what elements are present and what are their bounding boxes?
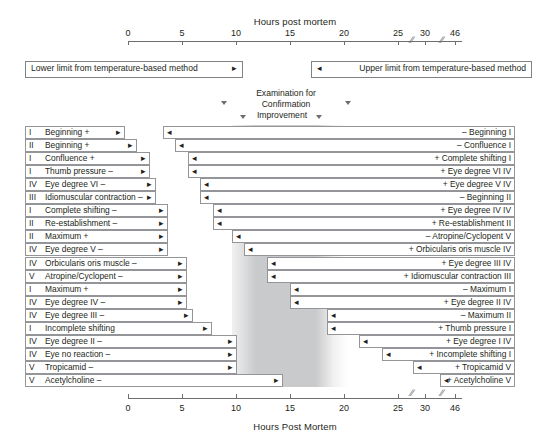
left-stage-roman: V bbox=[29, 375, 44, 387]
left-bar: IVEye degree VI –▸ bbox=[25, 178, 156, 191]
chart-row: VAcetylcholine –▸◂+ Acetylcholine V bbox=[0, 374, 540, 387]
axis-break-icon-1: // bbox=[408, 389, 415, 398]
left-bar: IThumb pressure –▸ bbox=[25, 165, 150, 178]
right-arrow-icon: ▸ bbox=[141, 153, 146, 165]
left-stage-roman: III bbox=[29, 192, 44, 204]
chart-row: VAtropine/Cyclopent –▸◂+ Idiomuscular co… bbox=[0, 270, 540, 283]
chart-row: IVOrbicularis oris muscle –▸◂+ Eye degre… bbox=[0, 257, 540, 270]
axis-tick-label-46: 46 bbox=[450, 28, 460, 38]
left-stage-roman: IV bbox=[29, 258, 44, 270]
right-sign-label: + Tropicamid V bbox=[455, 362, 511, 374]
axis-tick-25 bbox=[398, 394, 399, 398]
chart-row: IIMaximum +▸◂– Atropine/Cyclopent V bbox=[0, 230, 540, 243]
right-sign-label: – Confluence I bbox=[457, 140, 511, 152]
right-bar: ◂+ Acetylcholine V bbox=[440, 374, 515, 387]
left-arrow-icon: ◂ bbox=[217, 205, 222, 217]
right-sign-label: + Thumb pressure I bbox=[438, 323, 511, 335]
axis-tick-46 bbox=[455, 394, 456, 398]
axis-tick-20 bbox=[344, 41, 345, 45]
left-arrow-icon: ◂ bbox=[204, 192, 209, 204]
right-arrow-icon: ▸ bbox=[159, 218, 164, 230]
lower-limit-label: Lower limit from temperature-based metho… bbox=[31, 62, 198, 75]
axis-tick-label-46: 46 bbox=[450, 403, 460, 413]
left-arrow-icon: ◂ bbox=[204, 179, 209, 191]
right-arrow-icon: ▸ bbox=[116, 127, 121, 139]
left-stage-roman: IV bbox=[29, 310, 44, 322]
axis-tick-0 bbox=[128, 394, 129, 398]
right-bar: ◂+ Eye degree I IV bbox=[359, 335, 515, 348]
left-bar: IIncomplete shifting▸ bbox=[25, 322, 212, 335]
left-sign-label: Eye degree II – bbox=[45, 336, 102, 348]
axis-line bbox=[128, 398, 462, 399]
right-arrow-icon: ▸ bbox=[203, 323, 208, 335]
left-arrow-icon: ◂ bbox=[167, 127, 172, 139]
right-bar: ◂– Atropine/Cyclopent V bbox=[232, 230, 515, 243]
left-arrow-icon: ◂ bbox=[294, 284, 299, 296]
chart-row: IVEye no reaction –▸◂+ Incomplete shifti… bbox=[0, 348, 540, 361]
axis-break-icon-2: // bbox=[438, 389, 445, 398]
marker-outer-left-triangle-icon bbox=[221, 101, 227, 105]
left-arrow-icon: ◂ bbox=[294, 297, 299, 309]
left-stage-roman: I bbox=[29, 127, 44, 139]
right-sign-label: + Eye degree V IV bbox=[443, 179, 511, 191]
right-arrow-icon: ▸ bbox=[232, 63, 237, 74]
left-arrow-icon: ◂ bbox=[217, 218, 222, 230]
axis-tick-label-0: 0 bbox=[125, 28, 130, 38]
left-stage-roman: II bbox=[29, 231, 44, 243]
left-sign-label: Incomplete shifting bbox=[45, 323, 115, 335]
chart-row: IVEye degree IV –▸◂+ Eye degree II IV bbox=[0, 296, 540, 309]
left-sign-label: Tropicamid – bbox=[45, 362, 93, 374]
right-bar: ◂– Beginning I bbox=[163, 126, 515, 139]
left-arrow-icon: ◂ bbox=[192, 166, 197, 178]
left-stage-roman: I bbox=[29, 166, 44, 178]
right-sign-label: + Re-establishment II bbox=[432, 218, 511, 230]
right-bar: ◂+ Thumb pressure I bbox=[327, 322, 515, 335]
left-bar: IIRe-establishment –▸ bbox=[25, 217, 168, 230]
left-bar: IVEye degree II –▸ bbox=[25, 335, 237, 348]
left-stage-roman: V bbox=[29, 362, 44, 374]
left-arrow-icon: ◂ bbox=[331, 310, 336, 322]
upper-limit-label: Upper limit from temperature-based metho… bbox=[359, 62, 526, 75]
left-arrow-icon: ◂ bbox=[317, 63, 322, 74]
right-bar: ◂+ Eye degree V IV bbox=[200, 178, 515, 191]
right-sign-label: + Eye degree III IV bbox=[441, 258, 511, 270]
axis-tick-label-30: 30 bbox=[420, 403, 430, 413]
left-bar: IVEye degree V –▸ bbox=[25, 243, 168, 256]
axis-tick-30 bbox=[425, 41, 426, 45]
right-sign-label: – Maximum II bbox=[461, 310, 511, 322]
left-arrow-icon: ◂ bbox=[271, 258, 276, 270]
bottom-axis: 05101520253046//// bbox=[0, 398, 540, 422]
right-arrow-icon: ▸ bbox=[178, 271, 183, 283]
left-arrow-icon: ◂ bbox=[363, 336, 368, 348]
right-arrow-icon: ▸ bbox=[159, 231, 164, 243]
left-bar: IVOrbicularis oris muscle –▸ bbox=[25, 257, 187, 270]
left-bar: IVEye degree IV –▸ bbox=[25, 296, 187, 309]
right-arrow-icon: ▸ bbox=[128, 140, 133, 152]
left-arrow-icon: ◂ bbox=[236, 231, 241, 243]
lower-limit-bar: Lower limit from temperature-based metho… bbox=[25, 61, 243, 78]
chart-row: IConfluence +▸◂+ Complete shifting I bbox=[0, 152, 540, 165]
left-sign-label: Atropine/Cyclopent – bbox=[45, 271, 123, 283]
left-bar: IMaximum +▸ bbox=[25, 283, 187, 296]
chart-row: IIIIdiomuscular contraction –▸◂– Beginni… bbox=[0, 191, 540, 204]
marker-outer-right-triangle-icon bbox=[345, 101, 351, 105]
right-sign-label: + Complete shifting I bbox=[434, 153, 511, 165]
axis-tick-5 bbox=[182, 41, 183, 45]
chart-row: IVEye degree V –▸◂+ Orbicularis oris mus… bbox=[0, 243, 540, 256]
right-arrow-icon: ▸ bbox=[178, 258, 183, 270]
right-arrow-icon: ▸ bbox=[274, 375, 279, 387]
left-stage-roman: V bbox=[29, 271, 44, 283]
right-sign-label: + Eye degree VI IV bbox=[440, 166, 511, 178]
axis-tick-10 bbox=[236, 394, 237, 398]
left-arrow-icon: ◂ bbox=[179, 140, 184, 152]
axis-tick-label-0: 0 bbox=[125, 403, 130, 413]
left-sign-label: Maximum + bbox=[45, 231, 89, 243]
left-stage-roman: IV bbox=[29, 349, 44, 361]
chart-row: IVEye degree VI –▸◂+ Eye degree V IV bbox=[0, 178, 540, 191]
left-stage-roman: I bbox=[29, 205, 44, 217]
right-bar: ◂+ Orbicularis oris muscle IV bbox=[244, 243, 515, 256]
left-bar: VTropicamid –▸ bbox=[25, 361, 237, 374]
left-sign-label: Eye no reaction – bbox=[45, 349, 110, 361]
left-arrow-icon: ◂ bbox=[331, 323, 336, 335]
right-bar: ◂– Beginning II bbox=[200, 191, 515, 204]
